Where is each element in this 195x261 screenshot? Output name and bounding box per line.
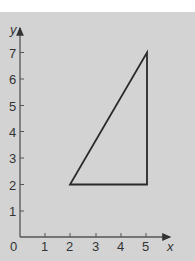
x-tick-label-1: 1 <box>41 239 48 254</box>
x-tick-label-3: 3 <box>92 239 99 254</box>
y-tick-label-7: 7 <box>9 46 16 61</box>
x-axis-label: x <box>166 239 174 254</box>
y-tick-label-1: 1 <box>9 204 16 219</box>
origin-label: 0 <box>10 239 17 254</box>
y-tick-label-3: 3 <box>9 151 16 166</box>
y-tick-label-5: 5 <box>9 99 16 114</box>
x-tick-label-4: 4 <box>117 239 124 254</box>
coordinate-plane: 1 2 3 4 5 6 7 0 1 2 3 4 5 x y <box>0 0 195 261</box>
y-tick-label-6: 6 <box>9 72 16 87</box>
x-tick-label-2: 2 <box>66 239 73 254</box>
chart-canvas: 1 2 3 4 5 6 7 0 1 2 3 4 5 x y <box>0 0 195 261</box>
y-tick-label-2: 2 <box>9 178 16 193</box>
y-tick-label-4: 4 <box>9 125 16 140</box>
x-tick-label-5: 5 <box>142 239 149 254</box>
y-axis-label: y <box>9 22 18 37</box>
triangle-shape <box>70 53 147 185</box>
